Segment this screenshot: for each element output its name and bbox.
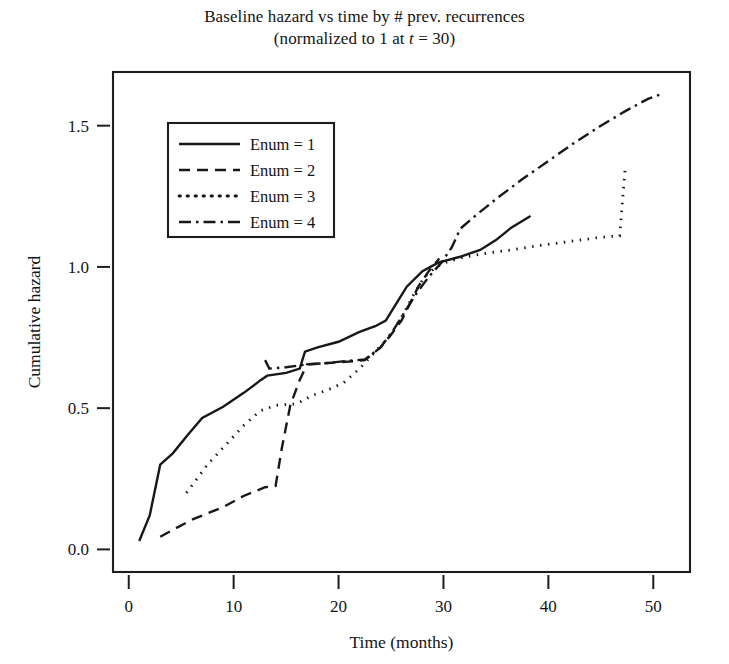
legend-label-2: Enum = 2	[250, 161, 315, 180]
x-tick-label: 10	[225, 597, 242, 616]
x-tick-label: 30	[435, 597, 452, 616]
x-tick-label: 40	[540, 597, 557, 616]
x-tick-label: 0	[124, 597, 133, 616]
y-tick-label: 1.5	[68, 117, 89, 136]
y-tick-label: 0.5	[68, 399, 89, 418]
legend-label-4: Enum = 4	[250, 213, 315, 232]
y-tick-label: 1.0	[68, 258, 89, 277]
chart-figure: Baseline hazard vs time by # prev. recur…	[0, 0, 729, 664]
legend-label-3: Enum = 3	[250, 187, 315, 206]
legend-label-1: Enum = 1	[250, 135, 315, 154]
y-axis-label: Cumulative hazard	[24, 255, 44, 388]
x-axis-label: Time (months)	[350, 632, 454, 652]
series-line-1	[139, 216, 530, 541]
legend-layer: Enum = 1Enum = 2Enum = 3Enum = 4	[168, 123, 334, 237]
x-tick-label: 50	[645, 597, 662, 616]
y-tick-label: 0.0	[68, 540, 89, 559]
axes-layer: 010203040500.00.51.01.5Time (months)Cumu…	[24, 72, 690, 652]
x-tick-label: 20	[330, 597, 347, 616]
plot-area: 010203040500.00.51.01.5Time (months)Cumu…	[0, 0, 729, 664]
